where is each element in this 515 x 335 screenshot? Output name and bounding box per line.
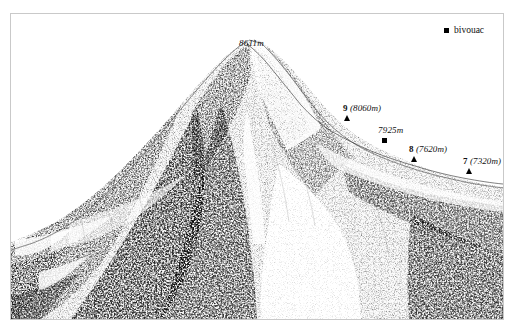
mountain-drawing	[11, 14, 503, 319]
camp-9-elevation: (8060m)	[350, 103, 381, 113]
camp-7-elevation: (7320m)	[470, 156, 501, 166]
camp-8-number: 8	[409, 144, 414, 154]
summit-elevation-label: 8611m	[239, 39, 264, 48]
camp-8-elevation: (7620m)	[416, 144, 447, 154]
camp-9-label: 9 (8060m)	[343, 104, 381, 113]
bivouac-square-icon	[444, 28, 449, 33]
camp-9-triangle-icon	[344, 115, 350, 121]
camp-9-number: 9	[343, 103, 348, 113]
legend-label: bivouac	[454, 26, 484, 36]
legend: bivouac	[444, 26, 484, 36]
camp-8-triangle-icon	[411, 156, 417, 162]
bivouac-7925-square-icon	[382, 138, 387, 143]
camp-7-number: 7	[463, 156, 468, 166]
camp-7-label: 7 (7320m)	[463, 157, 501, 166]
camp-8-label: 8 (7620m)	[409, 145, 447, 154]
illustration-canvas: bivouac 8611m 9 (8060m) 7925m 8 (7620m) …	[11, 14, 503, 319]
camp-7-triangle-icon	[466, 168, 472, 174]
mountain-profile-figure: bivouac 8611m 9 (8060m) 7925m 8 (7620m) …	[0, 0, 515, 335]
bivouac-7925-label: 7925m	[378, 126, 404, 135]
